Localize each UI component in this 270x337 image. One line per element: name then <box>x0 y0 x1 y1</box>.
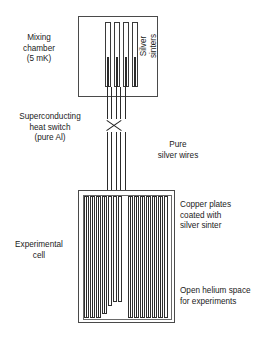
silver-wire-upper <box>111 87 112 119</box>
copper-plate <box>90 196 95 318</box>
copper-plate <box>113 196 117 302</box>
copper-plate <box>96 196 101 318</box>
experimental-cell-label: Experimental cell <box>4 240 74 261</box>
silver-sinters-label: Silver sinters <box>139 19 159 73</box>
pure-silver-wires-label: Pure silver wires <box>141 140 215 161</box>
copper-plate <box>102 196 107 314</box>
superconducting-heat-switch-label: Superconducting heat switch (pure Al) <box>4 112 96 144</box>
copper-plate <box>152 196 157 318</box>
sinter-rod-core <box>107 57 109 87</box>
copper-plate <box>164 196 168 318</box>
copper-plate <box>134 196 139 318</box>
silver-wire-lower <box>125 132 126 192</box>
sinter-rod-core <box>134 57 136 87</box>
copper-plate <box>108 196 112 306</box>
copper-plate <box>84 196 89 318</box>
copper-plate <box>128 196 133 318</box>
silver-wire-upper <box>120 87 121 119</box>
copper-plate <box>158 196 163 318</box>
silver-wire-lower <box>116 132 117 192</box>
open-helium-space-label: Open helium space for experiments <box>180 286 268 307</box>
silver-wire-lower <box>120 132 121 192</box>
copper-plate <box>140 196 145 318</box>
silver-wire-lower <box>111 132 112 192</box>
heat-switch-symbol <box>105 119 123 132</box>
copper-plate <box>118 196 122 302</box>
silver-wire-upper <box>125 87 126 119</box>
cryostat-diagram: Mixing chamber (5 mK) Silver sinters Sup… <box>0 0 270 337</box>
silver-wire-upper <box>116 87 117 119</box>
copper-plates-label: Copper plates coated with silver sinter <box>180 200 266 232</box>
silver-wire-upper <box>107 87 108 119</box>
sinter-rod-core <box>125 57 127 87</box>
copper-plate <box>146 196 151 318</box>
silver-wire-lower <box>107 132 108 192</box>
mixing-chamber-label: Mixing chamber (5 mK) <box>6 33 72 65</box>
sinter-rod-core <box>116 57 118 87</box>
